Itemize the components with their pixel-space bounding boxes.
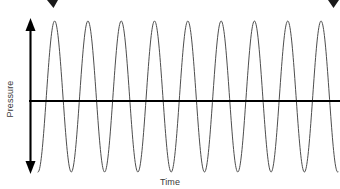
y-axis-label: Pressure [5,76,15,122]
plot-canvas [0,0,340,189]
x-axis-label: Time [0,177,340,187]
waveform-figure: Pressure Time [0,0,340,189]
figure-background [0,0,340,189]
